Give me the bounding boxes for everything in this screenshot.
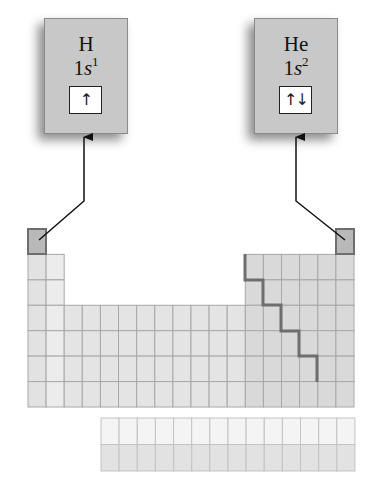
element-cell (173, 382, 191, 407)
element-cell (336, 254, 354, 279)
element-cell (245, 280, 263, 305)
element-cell (46, 305, 64, 330)
element-cell (155, 331, 173, 356)
element-cell (173, 305, 191, 330)
element-cell (318, 382, 336, 407)
f-block-cell (101, 445, 119, 472)
f-block-cell (210, 445, 228, 472)
element-cell (46, 382, 64, 407)
element-cell (46, 331, 64, 356)
element-cell (82, 305, 100, 330)
element-cell (28, 305, 46, 330)
element-cell (336, 305, 354, 330)
element-cell (336, 382, 354, 407)
element-cell (28, 356, 46, 381)
element-cell (119, 305, 137, 330)
element-cell (82, 382, 100, 407)
f-block-cell (137, 418, 155, 445)
element-cell (100, 382, 118, 407)
element-cell (155, 356, 173, 381)
element-cell (82, 331, 100, 356)
element-cell (282, 331, 300, 356)
periodic-table-grid (28, 254, 354, 407)
element-cell (155, 305, 173, 330)
element-cell (191, 382, 209, 407)
f-block-cell (119, 418, 137, 445)
element-cell (191, 331, 209, 356)
element-cell (82, 356, 100, 381)
element-cell (28, 331, 46, 356)
element-cell (318, 280, 336, 305)
f-block-cell (192, 418, 210, 445)
element-cell (300, 305, 318, 330)
element-cell (64, 382, 82, 407)
f-block-cell (174, 418, 192, 445)
element-cell (282, 305, 300, 330)
element-cell (227, 356, 245, 381)
element-cell (245, 254, 263, 279)
f-block-cell (264, 418, 282, 445)
element-cell (282, 280, 300, 305)
hydrogen-cell (28, 229, 46, 254)
f-block-cell (301, 445, 319, 472)
f-block-cell (264, 445, 282, 472)
f-block-cell (282, 445, 300, 472)
element-cell (227, 305, 245, 330)
element-cell (119, 356, 137, 381)
f-block-cell (155, 445, 173, 472)
f-block-cell (119, 445, 137, 472)
element-cell (155, 382, 173, 407)
element-cell (137, 331, 155, 356)
element-cell (46, 254, 64, 279)
element-cell (137, 382, 155, 407)
element-cell (263, 382, 281, 407)
element-cell (28, 254, 46, 279)
element-cell (318, 254, 336, 279)
element-cell (245, 356, 263, 381)
element-cell (336, 331, 354, 356)
element-cell (263, 356, 281, 381)
f-block-cell (282, 418, 300, 445)
element-cell (46, 280, 64, 305)
element-cell (46, 356, 64, 381)
f-block-cell (319, 445, 337, 472)
f-block-cell (155, 418, 173, 445)
element-cell (173, 331, 191, 356)
f-block-cell (228, 445, 246, 472)
element-cell (300, 382, 318, 407)
element-cell (300, 254, 318, 279)
hydrogen-arrow (39, 137, 84, 240)
element-cell (318, 305, 336, 330)
f-block-cell (319, 418, 337, 445)
f-block-cell (137, 445, 155, 472)
element-cell (263, 280, 281, 305)
f-block-cell (101, 418, 119, 445)
element-cell (282, 382, 300, 407)
element-cell (137, 356, 155, 381)
f-block-cell (192, 445, 210, 472)
element-cell (300, 331, 318, 356)
element-cell (336, 280, 354, 305)
f-block-cell (174, 445, 192, 472)
element-cell (209, 356, 227, 381)
element-cell (100, 331, 118, 356)
f-block-cell (210, 418, 228, 445)
element-cell (227, 331, 245, 356)
element-cell (100, 356, 118, 381)
element-cell (318, 331, 336, 356)
element-cell (263, 305, 281, 330)
periodic-table-diagram (0, 0, 375, 479)
element-cell (137, 305, 155, 330)
element-cell (119, 382, 137, 407)
element-cell (263, 254, 281, 279)
f-block-cell (228, 418, 246, 445)
element-cell (227, 382, 245, 407)
f-block-cell (337, 445, 355, 472)
element-cell (100, 305, 118, 330)
f-block-cell (246, 445, 264, 472)
element-cell (263, 331, 281, 356)
element-cell (282, 254, 300, 279)
element-cell (282, 356, 300, 381)
element-cell (209, 305, 227, 330)
helium-cell (336, 229, 354, 254)
